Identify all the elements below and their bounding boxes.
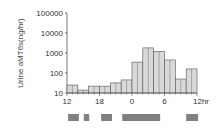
bar-series (67, 48, 197, 93)
dark-period (122, 114, 160, 121)
dark-period (186, 114, 198, 121)
y-tick-label: 10000 (41, 29, 64, 38)
dark-period (101, 114, 112, 121)
y-tick-label: 100000 (36, 9, 63, 18)
x-axis: 12180612hr (63, 93, 210, 106)
y-axis: 10100100010000100000 (36, 9, 67, 98)
x-tick-label: 0 (130, 97, 135, 106)
y-tick-label: 100 (50, 69, 64, 78)
dark-period (68, 114, 79, 121)
x-tick-label: 6 (162, 97, 167, 106)
x-tick-label: 18 (95, 97, 104, 106)
y-tick-label: 1000 (45, 49, 63, 58)
y-axis-label: Urine aMT6s(ng/hr) (16, 18, 25, 88)
dark-period (84, 114, 89, 121)
dark-period-bars (68, 114, 198, 121)
x-tick-label: 12hr (193, 97, 209, 106)
melatonin-bar-chart: Urine aMT6s(ng/hr) 10100100010000100000 … (0, 0, 222, 131)
x-tick-label: 12 (63, 97, 72, 106)
